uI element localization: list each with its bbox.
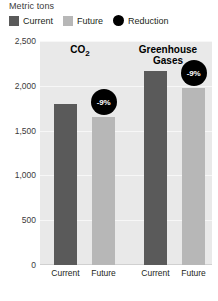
reduction-badge-co2: -9%	[91, 89, 117, 115]
bar-co2-future[interactable]	[92, 117, 115, 265]
bar-greenhouse-gases-current[interactable]	[144, 71, 167, 265]
gridline	[40, 41, 212, 42]
gridline	[40, 86, 212, 87]
x-axis-tick-label: Current	[141, 268, 169, 278]
legend-label-future: Future	[77, 16, 103, 26]
legend-item-current[interactable]: Current	[9, 16, 53, 26]
x-axis-tick-label: Future	[91, 268, 116, 278]
group-title-co2: CO2	[46, 44, 114, 59]
chart-legend: Current Future Reduction	[9, 15, 179, 26]
circle-swatch-black-icon	[113, 15, 124, 26]
legend-item-future[interactable]: Future	[63, 16, 103, 26]
plot-area: -9%-9%	[40, 41, 212, 265]
y-axis-tick-label: 0	[31, 261, 36, 270]
legend-item-reduction[interactable]: Reduction	[113, 15, 169, 26]
x-axis-tick-label: Current	[51, 268, 79, 278]
square-swatch-light-icon	[63, 16, 73, 26]
y-axis-tick-label: 500	[22, 216, 36, 225]
bar-co2-current[interactable]	[54, 104, 77, 265]
x-axis-tick-label: Future	[181, 268, 206, 278]
emissions-bar-chart: Metric tons Current Future Reduction 2,5…	[0, 0, 218, 301]
y-axis: 2,5002,0001,5001,0005000	[0, 41, 36, 265]
group-title-greenhouse-gases: GreenhouseGases	[128, 44, 208, 66]
y-axis-unit-label: Metric tons	[9, 1, 54, 12]
square-swatch-dark-icon	[9, 16, 19, 26]
y-axis-tick-label: 1,500	[15, 126, 36, 135]
x-axis: CurrentFutureCurrentFuture	[40, 268, 212, 282]
legend-label-current: Current	[23, 16, 53, 26]
y-axis-tick-label: 1,000	[15, 171, 36, 180]
y-axis-tick-label: 2,000	[15, 81, 36, 90]
y-axis-tick-label: 2,500	[15, 37, 36, 46]
legend-label-reduction: Reduction	[128, 16, 169, 26]
bar-greenhouse-gases-future[interactable]	[182, 88, 205, 265]
